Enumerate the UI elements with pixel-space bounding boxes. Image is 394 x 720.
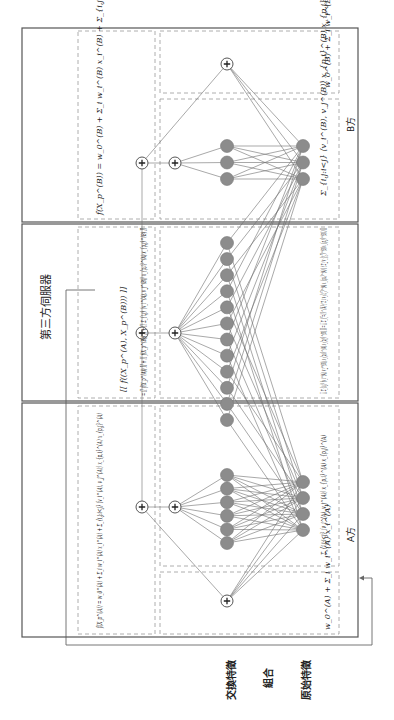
server-hidden-comb-edge (175, 333, 227, 388)
third-party-label: 第三方伺服器 (39, 274, 53, 340)
party-a-input-hidden-edge (227, 482, 303, 529)
server-hidden-comb-edge (175, 259, 227, 333)
server-hidden-comb-edge (175, 333, 227, 404)
server-cross-feature-node (221, 301, 234, 314)
party-a-linear-box (160, 572, 339, 634)
cross-a-server-edge (227, 307, 303, 482)
party-b-cross-feature-node (221, 140, 234, 153)
server-hidden-comb-edge (175, 275, 227, 333)
cross-a-server-edge (227, 404, 303, 514)
party-b-raw-feature-node (297, 140, 310, 153)
cross-b-server-edge (227, 163, 303, 260)
server-cross-feature-node (221, 397, 234, 410)
layer-label-raw-features: 原始特徵 (300, 659, 312, 700)
party-b-raw-feature-node (297, 156, 310, 169)
cross-a-server-edge (227, 259, 303, 498)
party-a-hidden-comb-edge (175, 489, 227, 507)
server-hidden-comb-edge (175, 243, 227, 333)
party-b-label: B方 (345, 117, 356, 132)
party-b-cross-feature-node (221, 173, 234, 186)
party-b-output-formula: f(X_p^(B)) = w_0^(B) + Σ_i w_i^(B) x_i^(… (95, 0, 104, 216)
party-a-hidden-comb-edge (175, 507, 227, 516)
party-a-input-hidden-edge (227, 529, 303, 530)
cross-a-server-edge (227, 372, 303, 482)
party-a-cross-feature-node (221, 482, 234, 495)
party-a-hidden-comb-edge (175, 502, 227, 507)
party-a-raw-feature-node (297, 476, 310, 489)
party-b-output-box (78, 31, 155, 219)
party-a-label: A方 (345, 527, 356, 542)
third-party-interaction-formula: [[ Σ_{i,j} ⟨v_i^(A), v_j^(B)⟩ x_{p,i}^(A… (319, 228, 328, 394)
party-a-output-formula: f(X_p^(A)) = w_0^(A) + Σ_i w_i^(A) x_i^(… (95, 413, 104, 629)
federated-fm-diagram: f(X_p^(B)) = w_0^(B) + Σ_i w_i^(B) x_i^(… (0, 0, 394, 720)
cross-b-server-edge (227, 146, 303, 340)
party-b-cross-feature-node (221, 156, 234, 169)
cross-b-server-edge (227, 163, 303, 404)
server-hidden-comb-edge (175, 307, 227, 333)
layer-label-combination: 組合 (262, 667, 274, 688)
third-party-frame (22, 224, 358, 401)
server-cross-feature-node (221, 365, 234, 378)
party-a-cross-feature-node (221, 496, 234, 509)
party-a-raw-feature-node (297, 524, 310, 537)
cross-a-server-edge (227, 323, 303, 498)
party-b-raw-feature-node (297, 173, 310, 186)
party-a-input-hidden-edge (227, 514, 303, 543)
party-b-interaction-formula: Σ_{i,j:i<j} ⟨v_i^(B), v_j^(B)⟩ x_{p,i}^(… (319, 0, 328, 197)
party-a-hidden-comb-edge (175, 507, 227, 529)
cross-b-server-edge (227, 179, 303, 372)
party-a-hidden-comb-edge (175, 475, 227, 507)
server-cross-feature-node (221, 349, 234, 362)
cross-b-server-edge (227, 179, 303, 420)
cross-a-server-edge (227, 388, 303, 498)
server-cross-feature-node (221, 269, 234, 282)
party-b-linear-edge (227, 64, 303, 163)
party-b-frame (22, 28, 358, 222)
server-hidden-comb-edge (175, 323, 227, 333)
server-cross-feature-node (221, 381, 234, 394)
server-hidden-comb-edge (175, 291, 227, 333)
cross-b-server-edge (227, 146, 303, 388)
third-party-output-formula-line1: [[ f((X_p^(A), X_p^(B))) ]] (119, 286, 128, 392)
party-a-raw-feature-node (297, 492, 310, 505)
party-a-cross-feature-node (221, 509, 234, 522)
server-cross-feature-node (221, 285, 234, 298)
party-a-frame (22, 403, 358, 637)
party-a-interaction-box (160, 406, 339, 566)
party-b-linear-top-edge (142, 64, 227, 163)
server-cross-feature-node (221, 317, 234, 330)
cross-b-server-edge (227, 163, 303, 308)
party-a-output-box (78, 406, 155, 634)
party-a-hidden-comb-edge (175, 507, 227, 543)
server-cross-feature-node (221, 333, 234, 346)
party-a-raw-feature-node (297, 508, 310, 521)
party-a-input-hidden-edge (227, 514, 303, 516)
party-a-cross-feature-node (221, 523, 234, 536)
layer-label-cross-features: 交換特徵 (225, 659, 237, 700)
cross-b-server-edge (227, 163, 303, 356)
feedback-arrow-head (359, 576, 364, 581)
cross-b-server-edge (227, 146, 303, 243)
cross-b-server-edge (227, 179, 303, 323)
party-b-linear-edge (227, 64, 303, 179)
party-a-cross-feature-node (221, 537, 234, 550)
cross-a-server-edge (227, 243, 303, 482)
party-b-linear-edge (227, 64, 303, 146)
server-cross-feature-node (221, 237, 234, 250)
party-a-linear-edge (227, 530, 303, 601)
server-hidden-comb-edge (175, 333, 227, 420)
server-cross-feature-node (221, 253, 234, 266)
party-b-linear-box (160, 31, 339, 93)
party-a-linear-formula: w_0^(A) + Σ_i w_i^(A) x_i^(A) (323, 504, 332, 630)
party-a-cross-feature-node (221, 469, 234, 482)
party-b-hidden-comb-edge (175, 163, 227, 164)
party-b-hidden-comb-edge (175, 163, 227, 179)
party-b-hidden-comb-edge (175, 146, 227, 163)
server-cross-feature-node (221, 414, 234, 427)
third-party-output-formula-line2: = [[ f(X_p^(A)) ]] + [[ f(X_p^(B)) ]] + … (139, 228, 148, 396)
party-a-input-hidden-edge (227, 516, 303, 530)
